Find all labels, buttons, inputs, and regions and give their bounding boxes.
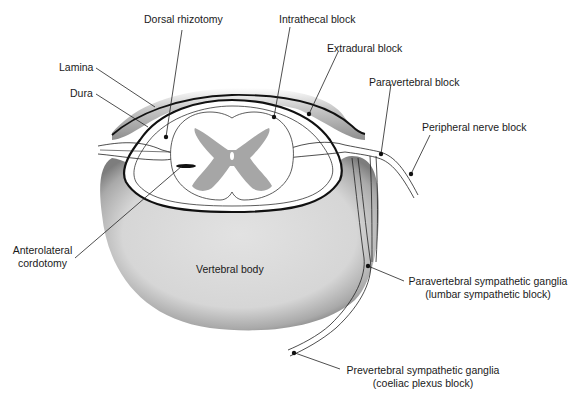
spinal-anatomy-diagram: [0, 0, 575, 398]
label-dorsal-rhizotomy: Dorsal rhizotomy: [144, 13, 223, 26]
cordotomy-lesion: [176, 164, 196, 168]
label-lamina: Lamina: [59, 61, 93, 74]
label-anterolateral-cordotomy: Anterolateral cordotomy: [10, 244, 75, 270]
label-peripheral-nerve-block: Peripheral nerve block: [422, 121, 526, 134]
label-vertebral-body: Vertebral body: [196, 263, 264, 276]
central-canal: [230, 152, 234, 160]
label-paravertebral-sympathetic-ganglia: Paravertebral sympathetic ganglia (lumba…: [408, 275, 568, 301]
label-prevertebral-sympathetic-ganglia: Prevertebral sympathetic ganglia (coelia…: [343, 364, 503, 390]
label-paravertebral-block: Paravertebral block: [369, 76, 459, 89]
label-dura: Dura: [70, 87, 93, 100]
label-extradural-block: Extradural block: [327, 42, 402, 55]
label-intrathecal-block: Intrathecal block: [279, 13, 355, 26]
